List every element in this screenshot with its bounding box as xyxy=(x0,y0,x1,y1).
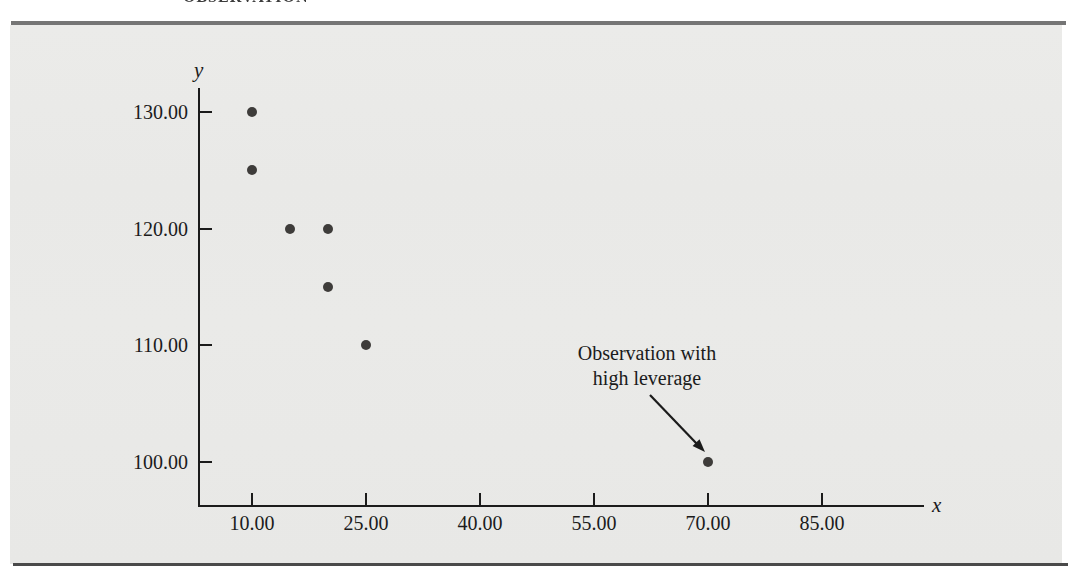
annotation-line-2: high leverage xyxy=(546,366,748,391)
annotation-label: Observation with high leverage xyxy=(546,341,748,391)
x-axis-tick xyxy=(365,493,367,506)
y-axis-tick xyxy=(199,461,212,463)
x-axis-tick xyxy=(593,493,595,506)
figure-bottom-rule xyxy=(13,563,1068,566)
x-axis-line xyxy=(198,505,924,507)
y-tick-label: 100.00 xyxy=(108,451,188,473)
annotation-arrow-icon xyxy=(0,0,1074,572)
x-tick-label: 40.00 xyxy=(440,512,520,534)
y-axis-label: y xyxy=(194,58,203,83)
data-point xyxy=(361,340,371,350)
x-axis-tick xyxy=(707,493,709,506)
y-tick-label: 110.00 xyxy=(108,334,188,356)
x-axis-label: x xyxy=(932,493,941,518)
textbook-figure-page: OBSERVATION y x Observation with high le… xyxy=(0,0,1074,572)
x-tick-label: 25.00 xyxy=(326,512,406,534)
y-axis-tick xyxy=(199,344,212,346)
x-tick-label: 10.00 xyxy=(212,512,292,534)
scatter-plot: y x Observation with high leverage 100.0… xyxy=(0,0,1074,572)
y-axis-tick xyxy=(199,228,212,230)
high-leverage-data-point xyxy=(703,457,713,467)
data-point xyxy=(247,165,257,175)
data-point xyxy=(323,224,333,234)
data-point xyxy=(323,282,333,292)
y-axis-tick xyxy=(199,111,212,113)
x-tick-label: 70.00 xyxy=(668,512,748,534)
data-point xyxy=(247,107,257,117)
y-tick-label: 130.00 xyxy=(108,101,188,123)
data-point xyxy=(285,224,295,234)
annotation-line-1: Observation with xyxy=(546,341,748,366)
x-tick-label: 85.00 xyxy=(782,512,862,534)
x-tick-label: 55.00 xyxy=(554,512,634,534)
y-tick-label: 120.00 xyxy=(108,218,188,240)
x-axis-tick xyxy=(251,493,253,506)
y-axis-line xyxy=(198,88,200,507)
x-axis-tick xyxy=(479,493,481,506)
x-axis-tick xyxy=(821,493,823,506)
